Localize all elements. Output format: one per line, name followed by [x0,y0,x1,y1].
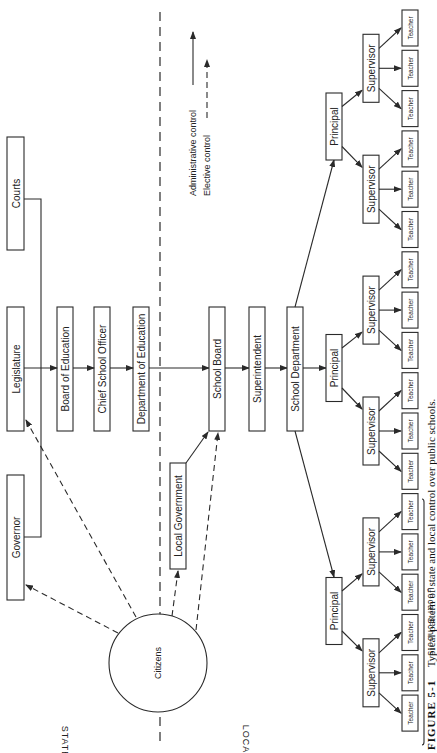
supervisor-node: Supervisor [363,518,379,586]
teacher-node: Teacher [402,131,418,167]
teacher-node: Teacher [402,252,418,288]
department-of-education-node: Department of Education [133,307,149,431]
teacher-node: Teacher [402,91,418,127]
supervisor-node: Supervisor [363,34,379,102]
school-department-label: School Department [290,326,301,412]
teacher-label: Teacher [407,378,414,402]
teacher-label: Teacher [407,459,414,483]
principal-node: Principal [326,93,342,160]
teacher-node: Teacher [402,655,418,691]
supervisor-node: Supervisor [363,276,379,344]
board-of-education-label: Board of Education [60,326,71,411]
teacher-label: Teacher [407,16,414,40]
citizens-node: Citizens [109,614,207,712]
governor-node: Governor [7,475,24,600]
teacher-label: Teacher [407,540,414,564]
legend-administrative-label: Administrative control [188,110,198,196]
legislature-label: Legislature [11,344,22,393]
teacher-label: Teacher [407,660,414,684]
school-department-node: School Department [287,307,303,431]
teacher-node: Teacher [402,574,418,610]
local-schools-tree: PrincipalSupervisorTeacherTeacherTeacher… [326,10,418,731]
supervisor-label: Supervisor [366,527,377,575]
courts-node: Courts [7,137,24,250]
governor-label: Governor [11,516,22,558]
supervisor-node: Supervisor [363,639,379,707]
local-government-node: Local Government [170,463,186,569]
teacher-label: Teacher [407,701,414,725]
citizens-label: Citizens [153,646,163,679]
teacher-node: Teacher [402,50,418,86]
teacher-label: Teacher [407,298,414,322]
department-of-education-label: Department of Education [136,314,147,425]
citizens-to-legislature-arrow [26,420,136,617]
local-schools-brace [422,499,424,745]
supervisor-label: Supervisor [366,648,377,696]
teacher-node: Teacher [402,695,418,731]
teacher-node: Teacher [402,171,418,207]
principal-node: Principal [326,335,342,402]
teacher-node: Teacher [402,332,418,368]
board-of-education-node: Board of Education [57,307,73,431]
legend: Administrative control Elective control [188,32,212,196]
teacher-label: Teacher [407,257,414,281]
principal-label: Principal [329,349,340,387]
svg-text:FIGURE 5-1 Typical patte: FIGURE 5-1 Typical pattern of state and … [421,398,437,750]
teacher-node: Teacher [402,413,418,449]
teacher-node: Teacher [402,373,418,409]
legend-elective-label: Elective control [202,135,212,196]
caption-label: FIGURE 5-1 [425,680,437,750]
local-government-label: Local Government [173,475,184,557]
figure-caption: FIGURE 5-1 Typical pattern of state and … [421,398,437,750]
teacher-label: Teacher [407,217,414,241]
teacher-label: Teacher [407,137,414,161]
teacher-node: Teacher [402,534,418,570]
teacher-label: Teacher [407,419,414,443]
teacher-label: Teacher [407,56,414,80]
teacher-node: Teacher [402,10,418,46]
supervisor-node: Supervisor [363,155,379,223]
legislature-node: Legislature [7,307,24,431]
principal-node: Principal [326,578,342,645]
supervisor-label: Supervisor [366,406,377,454]
superintendent-label: Superintendent [252,335,263,403]
teacher-label: Teacher [407,580,414,604]
supervisor-label: Supervisor [366,44,377,92]
teacher-node: Teacher [402,494,418,530]
superintendent-node: Superintendent [249,307,265,431]
local-government-to-school-board-arrow [186,432,208,463]
courts-label: Courts [11,179,22,208]
principal-label: Principal [329,592,340,630]
teacher-node: Teacher [402,453,418,489]
chief-school-officer-node: Chief School Officer [94,307,110,431]
supervisor-node: Supervisor [363,397,379,465]
local-region-label: LOCAL [241,725,251,753]
caption-text: Typical pattern of state and local contr… [425,398,437,667]
school-board-node: School Board [209,307,225,431]
teacher-label: Teacher [407,96,414,120]
teacher-node: Teacher [402,292,418,328]
org-diagram: Administrative control Elective control … [0,0,437,753]
chief-school-officer-label: Chief School Officer [97,324,108,413]
citizens-to-school-board-arrow [196,433,218,630]
teacher-node: Teacher [402,212,418,248]
school-board-label: School Board [212,339,223,399]
state-region-label: STATE [60,726,70,753]
teacher-label: Teacher [407,338,414,362]
teacher-node: Teacher [402,615,418,651]
teacher-label: Teacher [407,620,414,644]
teacher-label: Teacher [407,177,414,201]
supervisor-label: Supervisor [366,165,377,213]
citizens-to-governor-arrow [26,585,118,633]
principal-label: Principal [329,107,340,145]
citizens-to-local-government-arrow [172,571,178,616]
supervisor-label: Supervisor [366,286,377,334]
teacher-label: Teacher [407,499,414,523]
